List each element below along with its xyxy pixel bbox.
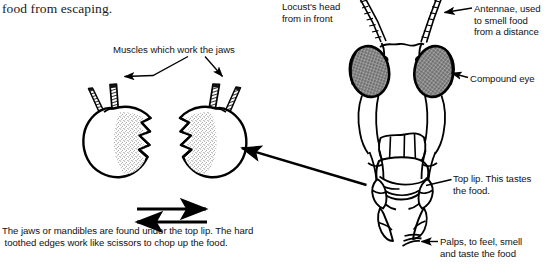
label-muscles-which-work-the-jaws: Muscles which work the jaws — [113, 44, 235, 56]
label-top-lip: Top lip. This tastes the food. — [453, 173, 531, 196]
diagram-page: food from escaping. Muscles which work t… — [0, 0, 548, 265]
right-mandible — [180, 84, 246, 177]
left-compound-eye — [346, 43, 392, 99]
muscles-leader-lines — [125, 57, 223, 77]
label-compound-eye: Compound eye — [470, 73, 534, 85]
head-to-mandible-pointer — [242, 148, 367, 185]
label-antennae: Antennae, used to smell food from a dist… — [474, 3, 541, 38]
continuation-sentence: food from escaping. — [2, 1, 112, 16]
right-antenna — [421, 0, 443, 43]
left-antenna — [359, 0, 387, 42]
caption-jaws-mandibles: The jaws or mandibles are found under th… — [2, 225, 253, 248]
left-mandible — [83, 84, 150, 177]
right-label-leaders — [422, 8, 473, 242]
mandibles-diagram — [83, 57, 246, 223]
jaw-motion-arrows — [137, 209, 207, 222]
locust-head-diagram — [346, 0, 457, 246]
label-locusts-head-from-in-front: Locust's head from in front — [282, 1, 340, 24]
right-compound-eye — [411, 43, 457, 99]
label-palps: Palps, to feel, smell and taste the food — [440, 236, 522, 259]
